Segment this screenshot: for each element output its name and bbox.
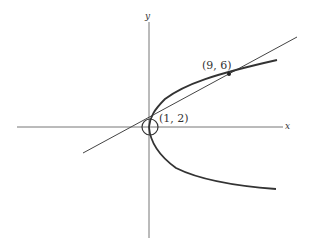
- point-label-9-6: (9, 6): [202, 59, 232, 72]
- parabola-lower-branch: [149, 127, 276, 189]
- diagram: y x (9, 6) (1, 2): [0, 0, 313, 252]
- point-label-1-2: (1, 2): [159, 112, 189, 125]
- y-axis-label: y: [144, 11, 151, 21]
- tangent-line: [83, 37, 297, 153]
- x-axis-label: x: [285, 121, 290, 131]
- point-9-6-dot: [227, 72, 231, 76]
